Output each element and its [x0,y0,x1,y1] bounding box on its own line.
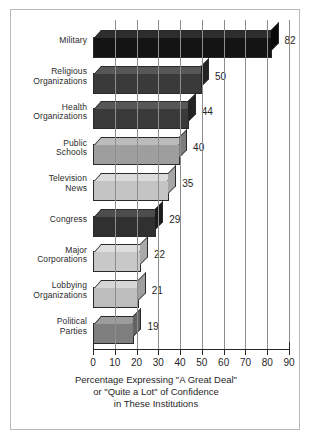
x-tick-label: 80 [255,357,279,368]
category-label-line: Military [11,36,87,46]
category-label: Congress [11,215,87,225]
category-label-line: Parties [11,327,87,337]
category-label: PublicSchools [11,139,87,158]
bar-value-label: 82 [285,35,296,46]
x-tick [289,350,290,355]
bar-value-label: 21 [152,285,163,296]
bar-end-face [138,272,146,301]
x-tick-label: 40 [168,357,192,368]
gridline [267,20,268,349]
bar-top-face [94,173,175,181]
category-label: Military [11,36,87,46]
caption-line-2: or "Quite a Lot" of Confidence [31,386,281,398]
category-label-line: Corporations [11,255,87,265]
x-axis-line [93,349,290,350]
bar [93,73,202,94]
x-tick-label: 0 [81,357,105,368]
bar [93,287,139,308]
gridline [115,20,116,349]
bar [93,323,134,344]
gridline [202,20,203,349]
bar-row [93,64,212,94]
category-label-line: Organizations [11,77,87,87]
x-tick-label: 20 [125,357,149,368]
x-tick [267,350,268,355]
bar-value-label: 44 [202,106,213,117]
gridline [137,20,138,349]
category-label: MajorCorporations [11,246,87,265]
bar [93,251,141,272]
category-label: PoliticalParties [11,317,87,336]
category-label-line: News [11,184,87,194]
category-label-line: Organizations [11,291,87,301]
bar-end-face [168,165,176,194]
bar-value-label: 19 [147,321,158,332]
x-tick [158,350,159,355]
bar-end-face [271,22,279,51]
caption-line-1: Percentage Expressing "A Great Deal" [31,374,281,386]
x-tick-label: 10 [103,357,127,368]
gridline [180,20,181,349]
bar-top-face [94,30,278,38]
x-tick [115,350,116,355]
x-axis-left-cap [93,342,94,350]
bar-row [93,278,149,308]
category-label: ReligiousOrganizations [11,67,87,86]
x-tick [202,350,203,355]
x-tick-label: 90 [277,357,301,368]
category-label: LobbyingOrganizations [11,281,87,300]
x-tick [137,350,138,355]
gridline [158,20,159,349]
bar [93,108,189,129]
bar-row [93,207,166,237]
bar-row [93,135,190,165]
x-tick [224,350,225,355]
category-label: TelevisionNews [11,174,87,193]
x-tick [93,350,94,355]
bar-top-face [94,66,208,74]
x-tick-label: 30 [146,357,170,368]
bar-value-label: 29 [169,214,180,225]
chart-figure: Military82ReligiousOrganizations50Health… [10,9,300,430]
x-axis-caption: Percentage Expressing "A Great Deal" or … [31,374,281,410]
category-label-line: Schools [11,148,87,158]
x-axis-right-cap [289,342,290,350]
gridline [224,20,225,349]
x-tick [245,350,246,355]
bar-top-face [94,137,186,145]
category-label-line: Organizations [11,112,87,122]
x-tick-label: 70 [233,357,257,368]
bar-row [93,28,282,58]
category-label-line: Congress [11,215,87,225]
x-tick [180,350,181,355]
bar-value-label: 35 [182,178,193,189]
bar-value-label: 22 [154,249,165,260]
gridline [289,20,290,349]
caption-line-3: in These Institutions [31,398,281,410]
category-label: HealthOrganizations [11,103,87,122]
x-tick-label: 50 [190,357,214,368]
bar-row [93,242,151,272]
bar-end-face [188,93,196,122]
gridline [245,20,246,349]
bar-top-face [94,209,162,217]
bar-end-face [140,236,148,265]
bar [93,216,156,237]
x-tick-label: 60 [212,357,236,368]
bar-row [93,99,199,129]
chart-plot-area: Military82ReligiousOrganizations50Health… [11,10,301,431]
